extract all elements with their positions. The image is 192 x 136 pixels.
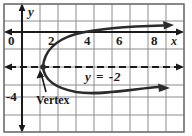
x-tick-label-8: 8 [151, 33, 158, 48]
x-tick-label-0: 0 [8, 33, 15, 48]
x-tick-label-4: 4 [84, 33, 91, 48]
y-axis-label: y [26, 4, 34, 19]
figure-background [0, 0, 192, 136]
x-tick-label-6: 6 [116, 33, 123, 48]
vertex-label: Vertex [36, 93, 70, 107]
x-tick-label-2: 2 [48, 33, 55, 48]
y-tick-label-minus-4: -4 [6, 89, 17, 104]
axis-of-symmetry-label: y = -2 [83, 69, 122, 84]
coordinate-plane: 0 2 4 6 8 -4 y x y = -2 Vertex [0, 0, 192, 136]
graph-figure: 0 2 4 6 8 -4 y x y = -2 Vertex [0, 0, 192, 136]
vertex-point [40, 64, 46, 70]
x-axis-label: x [170, 34, 177, 48]
